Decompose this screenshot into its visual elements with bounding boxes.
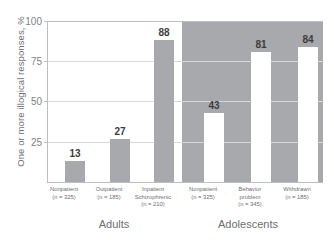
gridline-75 (48, 61, 323, 62)
category-n: (n = 345) (220, 201, 280, 209)
plot-area: 100 75 50 25 13 27 88 43 81 84 (47, 21, 323, 183)
bar-adults-nonpatient[interactable]: 13 (65, 161, 85, 182)
bar-value-adolescents-withdrawn: 84 (302, 34, 313, 45)
category-name: Outpatient (96, 186, 123, 192)
group-label-adolescents: Adolescents (193, 218, 303, 230)
ytick-label-100: 100 (25, 16, 48, 27)
ytick-label-25: 25 (31, 137, 48, 148)
bar-value-adolescents-behavior-problem: 81 (255, 39, 266, 50)
bar-value-adults-nonpatient: 13 (69, 148, 80, 159)
category-name: Nonpatient (50, 186, 78, 192)
chart-figure: One or more illogical responses, % 100 7… (0, 0, 334, 240)
bar-value-adults-inpatient-schizophrenic: 88 (158, 27, 169, 38)
bar-adolescents-behavior-problem[interactable]: 81 (251, 52, 271, 182)
category-name: Withdrawn (283, 186, 310, 192)
gridline-25 (48, 142, 323, 143)
category-name-line1: Behavior (239, 186, 262, 192)
gridline-50 (48, 101, 323, 102)
y-axis-title: One or more illogical responses, % (15, 2, 26, 182)
category-name: Nonpatient (189, 186, 217, 192)
gridline-100 (48, 21, 323, 22)
category-label-adolescents-withdrawn: Withdrawn (n = 185) (267, 186, 327, 201)
category-n: (n = 185) (267, 194, 327, 202)
bar-adults-outpatient[interactable]: 27 (110, 139, 130, 183)
ytick-label-75: 75 (31, 56, 48, 67)
bar-value-adolescents-nonpatient: 43 (208, 100, 219, 111)
ytick-label-50: 50 (31, 96, 48, 107)
category-n: (n = 210) (123, 201, 183, 209)
bar-adults-inpatient-schizophrenic[interactable]: 88 (154, 40, 174, 182)
group-label-adults: Adults (59, 218, 169, 230)
bar-adolescents-withdrawn[interactable]: 84 (298, 47, 318, 182)
bar-adolescents-nonpatient[interactable]: 43 (204, 113, 224, 182)
category-name-line1: Inpatient (142, 186, 164, 192)
bar-value-adults-outpatient: 27 (114, 126, 125, 137)
